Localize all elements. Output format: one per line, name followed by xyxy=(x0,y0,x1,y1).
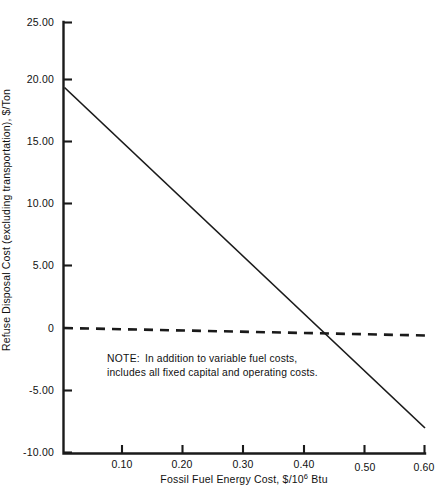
x-tick-label: 0.20 xyxy=(158,458,206,470)
y-tick-label: 5.00 xyxy=(6,259,54,271)
note-annotation: NOTE:In addition to variable fuel costs,… xyxy=(107,352,318,380)
x-axis-title-base: Fossil Fuel Energy Cost, $/10 xyxy=(160,473,304,485)
y-tick-label: 25.00 xyxy=(6,16,54,28)
y-tick-label: 0 xyxy=(6,322,54,334)
note-text-line-2: includes all fixed capital and operating… xyxy=(107,366,318,380)
x-tick-label: 0.60 xyxy=(400,461,443,473)
y-tick-label: 10.00 xyxy=(6,197,54,209)
x-tick-label: 0.40 xyxy=(280,458,328,470)
x-axis-title: Fossil Fuel Energy Cost, $/106 Btu xyxy=(63,473,425,485)
y-axis-title: Refuse Disposal Cost (excluding transpor… xyxy=(0,0,12,440)
y-tick-label: 15.00 xyxy=(6,135,54,147)
y-tick-label: -10.00 xyxy=(6,446,54,458)
chart-canvas xyxy=(0,0,443,493)
note-text-line-1: In addition to variable fuel costs, xyxy=(140,353,297,364)
axis-spines xyxy=(64,22,426,454)
series-break-even-reference-line xyxy=(64,328,425,336)
y-axis-ticks xyxy=(64,23,73,453)
chart-figure: 25.00 20.00 15.00 10.00 5.00 0 -5.00 -10… xyxy=(0,0,443,493)
note-line-1: NOTE:In addition to variable fuel costs, xyxy=(107,352,318,366)
note-keyword: NOTE: xyxy=(107,353,140,364)
y-tick-label: 20.00 xyxy=(6,73,54,85)
x-tick-label: 0.10 xyxy=(98,458,146,470)
x-tick-label: 0.50 xyxy=(341,461,389,473)
y-tick-label: -5.00 xyxy=(6,384,54,396)
x-axis-title-tail: Btu xyxy=(308,473,327,485)
x-tick-label: 0.30 xyxy=(219,458,267,470)
x-axis-ticks xyxy=(122,445,425,454)
